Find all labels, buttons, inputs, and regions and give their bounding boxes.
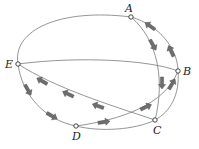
edge-e-b — [18, 60, 178, 71]
graph-diagram: A B C D E — [0, 0, 199, 149]
label-d: D — [71, 130, 81, 143]
node-e — [16, 62, 20, 66]
arrow-e-to-d-2 — [45, 110, 59, 122]
arrow-d-to-b-3 — [166, 77, 178, 91]
label-c: C — [153, 124, 162, 137]
arrow-d-to-b-1 — [98, 118, 111, 127]
arrow-b-to-a-2 — [165, 44, 177, 58]
arrow-c-to-e-2 — [61, 88, 75, 100]
node-c — [153, 118, 157, 122]
label-a: A — [124, 2, 133, 15]
edge-a-c — [131, 17, 159, 120]
arrow-c-to-e-3 — [35, 75, 49, 87]
edge-a-e — [17, 15, 131, 64]
edge-d-c — [76, 120, 155, 129]
arrow-b-to-a-1 — [143, 20, 157, 33]
node-d — [74, 124, 78, 128]
node-a — [129, 15, 133, 19]
edge-c-e — [18, 64, 155, 120]
label-e: E — [4, 58, 13, 71]
label-b: B — [182, 65, 191, 78]
node-b — [176, 69, 180, 73]
